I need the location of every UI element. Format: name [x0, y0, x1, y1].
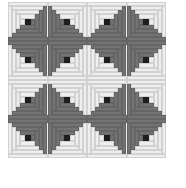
log-strip	[39, 49, 43, 72]
log-strip	[12, 33, 43, 37]
quilt-block	[48, 41, 88, 80]
log-strip	[99, 25, 114, 29]
log-strip	[99, 63, 114, 67]
log-strip	[154, 14, 158, 29]
quilt-block	[87, 80, 127, 119]
block-center	[64, 135, 70, 141]
log-strip	[118, 10, 122, 33]
log-strip	[149, 97, 153, 103]
log-strip	[91, 111, 122, 115]
log-strip	[149, 19, 153, 25]
log-strip	[35, 53, 39, 68]
log-strip	[118, 88, 122, 111]
log-strip	[114, 131, 118, 146]
quilt-block	[127, 2, 167, 41]
log-strip	[99, 141, 114, 145]
log-strip	[16, 146, 39, 150]
log-strip	[110, 135, 114, 141]
quilt-block	[127, 41, 167, 80]
log-strip	[135, 68, 158, 72]
log-strip	[79, 127, 83, 150]
log-strip	[70, 57, 74, 63]
log-strip	[149, 135, 153, 141]
log-strip	[20, 25, 35, 29]
log-strip	[154, 92, 158, 107]
quilt-block	[8, 119, 48, 158]
log-strip	[35, 92, 39, 107]
log-strip	[118, 49, 122, 72]
log-strip	[70, 135, 74, 141]
log-strip	[12, 150, 43, 154]
log-strip	[131, 150, 162, 154]
log-strip	[20, 103, 35, 107]
log-strip	[31, 97, 35, 103]
log-strip	[110, 57, 114, 63]
quilt-block	[87, 119, 127, 158]
log-strip	[114, 14, 118, 29]
log-strip	[91, 72, 122, 76]
log-strip	[139, 103, 154, 107]
log-strip	[79, 88, 83, 111]
log-strip	[162, 6, 166, 37]
log-strip	[114, 92, 118, 107]
log-strip	[60, 103, 75, 107]
log-strip	[75, 14, 79, 29]
quilt-block	[8, 41, 48, 80]
log-strip	[39, 88, 43, 111]
log-strip	[131, 111, 162, 115]
quilt-block	[127, 80, 167, 119]
log-strip	[158, 10, 162, 33]
log-strip	[60, 25, 75, 29]
log-strip	[139, 141, 154, 145]
log-strip	[131, 72, 162, 76]
block-center	[143, 57, 149, 63]
log-strip	[39, 10, 43, 33]
block-center	[64, 57, 70, 63]
log-strip	[95, 29, 118, 33]
block-center	[64, 97, 70, 103]
log-strip	[20, 141, 35, 145]
log-strip	[75, 92, 79, 107]
log-strip	[70, 19, 74, 25]
block-center	[104, 19, 110, 25]
block-center	[104, 57, 110, 63]
log-strip	[135, 29, 158, 33]
log-strip	[87, 154, 127, 158]
log-strip	[91, 150, 122, 154]
log-strip	[60, 141, 75, 145]
log-strip	[91, 33, 122, 37]
log-strip	[154, 53, 158, 68]
log-strip	[95, 107, 118, 111]
block-center	[25, 19, 31, 25]
quilt-block	[87, 41, 127, 80]
log-strip	[79, 10, 83, 33]
log-strip	[70, 97, 74, 103]
log-strip	[48, 154, 88, 158]
log-strip	[158, 127, 162, 150]
block-center	[64, 19, 70, 25]
log-strip	[39, 127, 43, 150]
quilt-block	[8, 80, 48, 119]
quilt-block	[8, 2, 48, 41]
log-strip	[95, 68, 118, 72]
log-strip	[131, 33, 162, 37]
block-center	[104, 97, 110, 103]
log-strip	[139, 63, 154, 67]
log-strip	[75, 53, 79, 68]
block-center	[104, 135, 110, 141]
log-strip	[127, 154, 167, 158]
quilt-block	[48, 80, 88, 119]
log-strip	[162, 123, 166, 154]
log-strip	[99, 103, 114, 107]
log-strip	[139, 25, 154, 29]
block-center	[143, 135, 149, 141]
log-strip	[16, 29, 39, 33]
log-strip	[12, 72, 43, 76]
log-strip	[52, 72, 83, 76]
block-center	[143, 19, 149, 25]
log-strip	[16, 68, 39, 72]
log-strip	[95, 146, 118, 150]
log-strip	[52, 111, 83, 115]
log-strip	[56, 146, 79, 150]
quilt-block	[48, 119, 88, 158]
